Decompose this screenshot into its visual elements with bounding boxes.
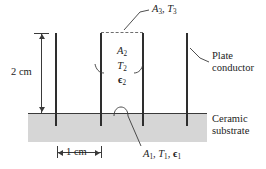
leader-line-top-surface <box>124 10 149 30</box>
top-surface-label: A3, T3 <box>152 3 177 18</box>
height-dimension-tick-bottom <box>34 113 49 114</box>
width-dimension-arrow-left <box>58 150 63 156</box>
side-surface-label: A2 T2 ϵ2 <box>104 45 140 89</box>
height-dimension-arrow-top <box>39 34 45 39</box>
figure-canvas: 2 cm 1 cm A3, T3 A2 T2 ϵ2 A1, T1, ϵ1 Pla… <box>0 0 266 169</box>
ceramic-substrate-label-line2: substrate <box>212 125 249 137</box>
plate-conductor-label-line1: Plate <box>212 50 254 62</box>
side-surface-emissivity-subscript: 2 <box>122 79 126 87</box>
height-dimension-arrow-bottom <box>39 107 45 112</box>
plate-conductor-label-line2: conductor <box>212 62 254 74</box>
plate-conductor-1 <box>55 33 57 126</box>
ceramic-substrate-label: Ceramic substrate <box>212 113 249 136</box>
width-dimension-tick-right <box>101 146 102 158</box>
side-surface-temperature-subscript: 2 <box>123 64 127 72</box>
imaginary-top-surface-dashed-line <box>101 32 143 33</box>
side-surface-area-row: A2 <box>104 45 140 60</box>
plate-conductor-2 <box>100 33 102 126</box>
side-surface-emissivity-row: ϵ2 <box>104 74 140 89</box>
side-surface-area-subscript: 2 <box>123 50 127 58</box>
height-dimension-line <box>41 33 42 113</box>
ceramic-substrate-label-line1: Ceramic <box>212 113 249 125</box>
plate-conductor-3 <box>142 33 144 126</box>
width-dimension-label: 1 cm <box>66 146 87 157</box>
width-dimension-arrow-right <box>95 150 100 156</box>
side-surface-temperature-row: T2 <box>104 60 140 75</box>
height-dimension-label: 2 cm <box>11 66 32 77</box>
plate-conductor-4 <box>186 33 188 126</box>
base-surface-emissivity-subscript: 1 <box>177 153 181 161</box>
base-surface-label: A1, T1, ϵ1 <box>143 148 181 163</box>
top-surface-temperature-subscript: 3 <box>173 8 177 16</box>
plate-conductor-label: Plate conductor <box>212 50 254 73</box>
leader-line-plate-conductor <box>190 48 209 62</box>
